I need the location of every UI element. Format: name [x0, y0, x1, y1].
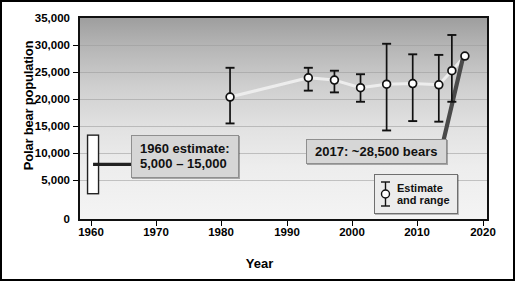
data-point-marker [409, 80, 417, 88]
legend-label-line1: Estimate [397, 182, 450, 194]
legend: Estimate and range [374, 174, 458, 214]
y-tick-label-15000: 15,000 [35, 120, 70, 132]
y-tick-label-25000: 25,000 [35, 66, 70, 78]
y-tick-label-20000: 20,000 [35, 93, 70, 105]
data-point-marker [435, 81, 443, 89]
chart-figure: Polar bear population Year 35,000 30,000… [0, 0, 515, 281]
x-tick-label-1970: 1970 [143, 226, 169, 238]
y-axis-title: Polar bear population [21, 31, 36, 181]
x-tick-label-2010: 2010 [404, 226, 430, 238]
data-point-marker [448, 67, 456, 75]
annotation-1960-estimate: 1960 estimate: 5,000 – 15,000 [131, 135, 239, 178]
legend-errorbar-circle-marker [379, 179, 392, 209]
data-point-marker [331, 76, 339, 84]
annotation-2017-estimate: 2017: ~28,500 bears [306, 139, 447, 164]
x-tick-label-1980: 1980 [208, 226, 234, 238]
data-point-marker [304, 74, 312, 82]
x-tick-label-2000: 2000 [339, 226, 365, 238]
x-tick-label-1990: 1990 [274, 226, 300, 238]
y-tick-label-30000: 30,000 [35, 39, 70, 51]
x-tick-label-2020: 2020 [470, 226, 496, 238]
data-point-marker [461, 52, 469, 60]
legend-label-line2: and range [397, 194, 450, 206]
x-tick-label-1960: 1960 [78, 226, 104, 238]
y-tick-label-10000: 10,000 [35, 147, 70, 159]
y-tick-label-0: 0 [64, 213, 70, 225]
x-axis-title: Year [2, 256, 515, 271]
legend-text: Estimate and range [397, 182, 450, 207]
data-point-marker [226, 93, 234, 101]
y-tick-label-5000: 5,000 [41, 174, 70, 186]
data-point-marker [383, 80, 391, 88]
series-line [230, 56, 465, 97]
data-point-marker [357, 84, 365, 92]
y-tick-label-35000: 35,000 [35, 12, 70, 24]
